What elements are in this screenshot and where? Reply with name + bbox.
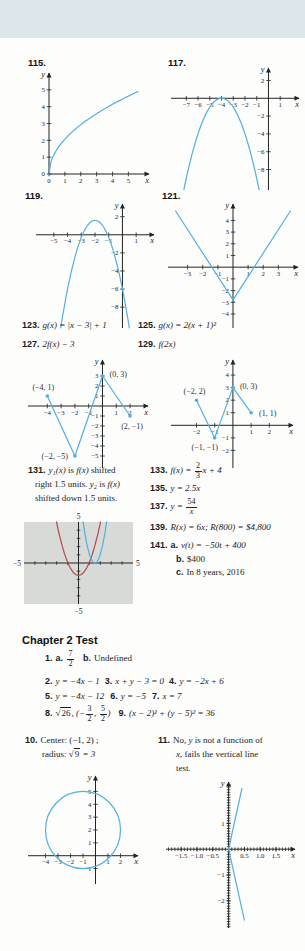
svg-text:2: 2 [261, 77, 265, 84]
answer-135: 135.y = 2.5x [150, 483, 200, 494]
svg-text:y: y [114, 200, 119, 210]
svg-text:−2: −2 [199, 270, 207, 277]
svg-text:1: 1 [63, 177, 66, 184]
graph-piecewise-left: −4−3−2−112321−1−2−3−4−5(−4, 1)(0, 3)(2, … [20, 354, 154, 474]
svg-text:x: x [288, 426, 293, 436]
svg-text:x: x [290, 850, 295, 860]
svg-text:−3: −3 [184, 270, 192, 277]
svg-text:−5: −5 [50, 237, 58, 244]
svg-text:1: 1 [134, 237, 137, 244]
svg-text:−5: −5 [75, 607, 83, 616]
graph-canvas: −5−4−3−2−112−2−4−6−8xy [28, 198, 160, 334]
svg-text:−0.5: −0.5 [207, 852, 220, 859]
test-answer-2-4: 2.y = −4x − 13.x + y − 3 = 04.y = −2x + … [45, 676, 224, 687]
graph-circle-10: −4−3−2−11254321−1xy [20, 770, 144, 890]
test-answer-10-line1: 10.Center: (−1, 2) ; [25, 735, 99, 746]
svg-text:4: 4 [226, 371, 230, 378]
svg-text:3: 3 [42, 120, 46, 127]
graph-piecewise-right: −2−1124321−1−2(−2, 2)(0, 3)(1, 1)(−1, −1… [163, 354, 299, 474]
graph-115: 012345012345xy [36, 66, 158, 188]
svg-text:−5: −5 [91, 452, 99, 459]
svg-text:1: 1 [88, 839, 91, 846]
answer-141b: b.$400 [176, 554, 205, 565]
svg-text:3: 3 [226, 384, 230, 391]
svg-text:5: 5 [127, 177, 131, 184]
svg-text:−2: −2 [217, 897, 225, 904]
svg-text:y: y [224, 200, 229, 210]
svg-text:y: y [94, 356, 99, 366]
svg-text:−2: −2 [193, 428, 201, 435]
svg-text:2: 2 [268, 428, 272, 435]
test-answer-11-line1: 11.No, y is not a function of [158, 735, 263, 746]
graph-canvas: −2−1124321−1−2(−2, 2)(0, 3)(1, 1)(−1, −1… [163, 354, 299, 474]
svg-text:−3: −3 [57, 409, 65, 416]
svg-text:y: y [220, 778, 225, 788]
graph-calculator-131: 5−5−55 [8, 512, 148, 616]
svg-text:x: x [143, 407, 148, 417]
svg-text:1: 1 [42, 153, 45, 160]
svg-text:2: 2 [262, 270, 266, 277]
page-top-band [0, 0, 305, 38]
svg-text:2: 2 [226, 240, 230, 247]
svg-text:y: y [224, 356, 229, 366]
svg-text:1: 1 [226, 409, 229, 416]
svg-text:4: 4 [226, 217, 230, 224]
svg-text:−4: −4 [42, 858, 50, 865]
svg-text:x: x [294, 99, 299, 109]
svg-text:−4: −4 [257, 130, 265, 137]
svg-text:(−2, −5): (−2, −5) [42, 452, 69, 461]
svg-text:0: 0 [42, 170, 46, 177]
svg-text:x: x [133, 856, 138, 866]
answer-139: 139.R(x) = 6x; R(800) = $4,800 [150, 522, 271, 533]
answer-141a: 141.a.v(t) = −50t + 400 [150, 540, 246, 551]
graph-canvas: −1.5−1.0−0.50.51.01.51−1−2xy [158, 776, 303, 934]
graph-canvas: −7−6−5−4−3−2−112−2−4−6−8xy [163, 62, 305, 196]
graph-relation-11: −1.5−1.0−0.50.51.01.51−1−2xy [158, 776, 303, 934]
answer-131-line2: right 1.5 units. y₂ is f(x) [35, 479, 120, 490]
svg-text:5: 5 [136, 559, 140, 568]
svg-text:(2, −1): (2, −1) [121, 422, 143, 431]
svg-text:(−1, −1): (−1, −1) [192, 443, 219, 452]
answer-key-page: 115. 117. 012345012345xy −7−6−5−4−3−2−11… [0, 0, 305, 951]
graph-canvas: 012345012345xy [36, 66, 158, 188]
svg-text:−1.0: −1.0 [191, 852, 204, 859]
svg-text:5: 5 [77, 512, 81, 521]
graph-117: −7−6−5−4−3−2−112−2−4−6−8xy [163, 62, 305, 196]
svg-text:−2: −2 [222, 447, 230, 454]
graph-canvas: −4−3−2−11254321−1xy [20, 770, 144, 890]
svg-text:−8: −8 [111, 303, 119, 310]
answer-123: 123.g(x) = |x − 3| + 1 [22, 320, 107, 331]
svg-text:x: x [144, 175, 149, 185]
svg-text:3: 3 [226, 228, 230, 235]
svg-text:−6: −6 [194, 101, 202, 108]
svg-text:x: x [293, 268, 298, 278]
graph-121: −3−2−11234321−1−2−3−4xy [160, 198, 304, 334]
svg-text:1: 1 [115, 409, 118, 416]
svg-text:−7: −7 [183, 101, 191, 108]
svg-text:−5: −5 [13, 559, 21, 568]
svg-text:(−4, 1): (−4, 1) [32, 383, 54, 392]
svg-text:1: 1 [249, 428, 252, 435]
svg-text:3: 3 [88, 813, 92, 820]
svg-text:1: 1 [221, 820, 224, 827]
svg-text:4: 4 [111, 177, 115, 184]
svg-text:y: y [40, 69, 45, 79]
answer-133: 133.f(x) = 23x + 4 [150, 462, 222, 480]
test-answer-5-7: 5.y = −4x − 126.y = −57.x = 7 [45, 691, 182, 702]
svg-text:y: y [260, 64, 265, 74]
svg-text:−4: −4 [218, 101, 226, 108]
svg-text:−1: −1 [217, 871, 224, 878]
answer-127: 127.2f(x) − 3 [22, 339, 75, 350]
svg-text:−1: −1 [253, 101, 260, 108]
answer-129: 129.f(2x) [138, 339, 176, 350]
section-heading: Chapter 2 Test [22, 634, 98, 646]
svg-text:−2: −2 [67, 858, 75, 865]
svg-text:3: 3 [277, 270, 281, 277]
test-answer-11-line3: test. [176, 763, 191, 774]
svg-text:−2: −2 [241, 101, 249, 108]
svg-text:1: 1 [279, 101, 282, 108]
svg-text:−2: −2 [91, 422, 99, 429]
svg-text:x: x [149, 235, 154, 245]
svg-text:y: y [87, 772, 92, 782]
test-answer-1: 1.a.72b.Undefined [45, 650, 132, 668]
